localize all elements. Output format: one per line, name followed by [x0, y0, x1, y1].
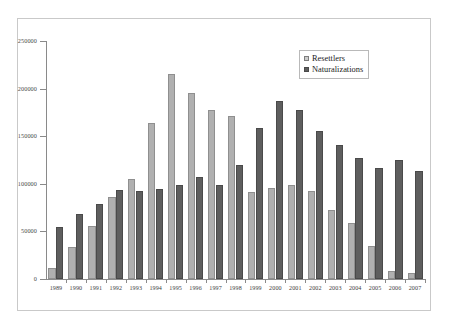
x-axis-tick	[106, 279, 107, 283]
legend-swatch-resettlers-icon	[304, 56, 309, 61]
y-axis-tick-label: 150000	[0, 133, 37, 139]
x-axis-tick	[186, 279, 187, 283]
bar-resettlers-1997	[208, 110, 215, 279]
legend-label-naturalizations: Naturalizations	[312, 65, 363, 75]
y-axis-tick-label: 100000	[0, 181, 37, 187]
x-axis-line	[46, 279, 426, 280]
x-axis-tick-label: 2007	[402, 285, 428, 292]
bar-naturalizations-2000	[276, 101, 283, 279]
x-axis-tick	[325, 279, 326, 283]
bar-naturalizations-2005	[375, 168, 382, 279]
bar-naturalizations-2003	[336, 145, 343, 279]
x-axis-tick	[365, 279, 366, 283]
x-axis-tick	[285, 279, 286, 283]
x-axis-tick	[86, 279, 87, 283]
y-axis-tick	[40, 279, 46, 280]
bar-resettlers-2006	[388, 271, 395, 279]
bar-naturalizations-1994	[156, 189, 163, 279]
y-axis-tick-label: 200000	[0, 86, 37, 92]
legend-swatch-naturalizations-icon	[304, 67, 309, 72]
x-axis-tick	[385, 279, 386, 283]
bar-naturalizations-2006	[395, 160, 402, 279]
x-axis-tick	[166, 279, 167, 283]
x-axis-tick	[345, 279, 346, 283]
x-axis-tick	[126, 279, 127, 283]
bar-resettlers-1992	[108, 197, 115, 279]
bar-resettlers-1989	[48, 268, 55, 279]
bar-naturalizations-1991	[96, 204, 103, 279]
legend-item-resettlers: Resettlers	[304, 53, 363, 64]
x-axis-tick	[425, 279, 426, 283]
bar-resettlers-2003	[328, 210, 335, 279]
bar-naturalizations-1997	[216, 185, 223, 279]
bar-resettlers-2007	[408, 273, 415, 279]
bar-resettlers-2005	[368, 246, 375, 279]
bar-naturalizations-1998	[236, 165, 243, 279]
bar-naturalizations-2007	[415, 171, 422, 279]
bar-resettlers-1998	[228, 116, 235, 279]
bar-chart-figure: 250000200000150000100000500000 198919901…	[0, 0, 459, 327]
y-axis-tick-label: 250000	[0, 38, 37, 44]
legend-label-resettlers: Resettlers	[312, 54, 345, 64]
x-axis-tick	[66, 279, 67, 283]
bar-resettlers-1996	[188, 93, 195, 279]
bar-naturalizations-2002	[316, 131, 323, 279]
bar-resettlers-2001	[288, 185, 295, 279]
bar-resettlers-1994	[148, 123, 155, 279]
x-axis-tick	[245, 279, 246, 283]
bar-naturalizations-1999	[256, 128, 263, 279]
bar-resettlers-1991	[88, 226, 95, 279]
bar-resettlers-2004	[348, 223, 355, 279]
y-axis-tick-label: 0	[0, 276, 37, 282]
x-axis-tick	[226, 279, 227, 283]
x-axis-tick	[265, 279, 266, 283]
bar-resettlers-1995	[168, 74, 175, 279]
x-axis-tick	[146, 279, 147, 283]
bar-naturalizations-1989	[56, 227, 63, 279]
bar-naturalizations-2001	[296, 110, 303, 279]
bar-resettlers-2000	[268, 188, 275, 279]
bar-resettlers-1993	[128, 179, 135, 279]
y-axis-tick-label: 50000	[0, 228, 37, 234]
x-axis-tick	[206, 279, 207, 283]
x-axis-tick	[305, 279, 306, 283]
bar-naturalizations-1990	[76, 214, 83, 279]
bar-resettlers-1999	[248, 192, 255, 279]
x-axis-tick	[405, 279, 406, 283]
chart-legend: Resettlers Naturalizations	[299, 50, 369, 79]
bar-naturalizations-1992	[116, 190, 123, 279]
bar-naturalizations-1993	[136, 191, 143, 279]
bar-naturalizations-2004	[355, 158, 362, 279]
bar-naturalizations-1996	[196, 177, 203, 279]
bar-resettlers-2002	[308, 191, 315, 279]
legend-item-naturalizations: Naturalizations	[304, 64, 363, 75]
bar-naturalizations-1995	[176, 185, 183, 279]
bar-resettlers-1990	[68, 247, 75, 279]
